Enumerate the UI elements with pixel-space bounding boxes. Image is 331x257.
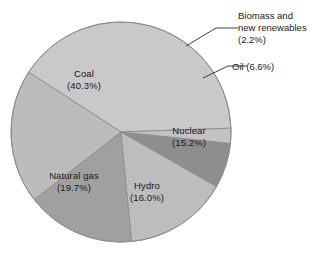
slice-label-hydro: Hydro (16.0%)	[120, 180, 174, 203]
slice-label-nuclear-value: (15.2%)	[159, 137, 219, 149]
callout-label-oil: Oil (6.6%)	[232, 61, 328, 73]
slice-label-hydro-name: Hydro	[120, 180, 174, 192]
slice-label-nuclear: Nuclear (15.2%)	[159, 125, 219, 148]
callout-label-oil-text: Oil (6.6%)	[232, 61, 328, 73]
slice-label-natural-gas-name: Natural gas	[36, 170, 112, 182]
pie-chart-figure: Coal (40.3%) Natural gas (19.7%) Hydro (…	[0, 0, 331, 257]
slice-label-coal-value: (40.3%)	[54, 80, 114, 92]
slice-label-coal: Coal (40.3%)	[54, 68, 114, 91]
callout-label-biomass-line1: Biomass and	[238, 10, 330, 22]
slice-label-natural-gas-value: (19.7%)	[36, 182, 112, 194]
leader-line-biomass	[186, 28, 238, 46]
callout-label-biomass-and-new-renewables: Biomass and new renewables (2.2%)	[238, 10, 330, 45]
slice-label-coal-name: Coal	[54, 68, 114, 80]
callout-label-biomass-line3: (2.2%)	[238, 34, 330, 46]
callout-label-biomass-line2: new renewables	[238, 22, 330, 34]
slice-label-hydro-value: (16.0%)	[120, 192, 174, 204]
slice-label-nuclear-name: Nuclear	[159, 125, 219, 137]
slice-label-natural-gas: Natural gas (19.7%)	[36, 170, 112, 193]
